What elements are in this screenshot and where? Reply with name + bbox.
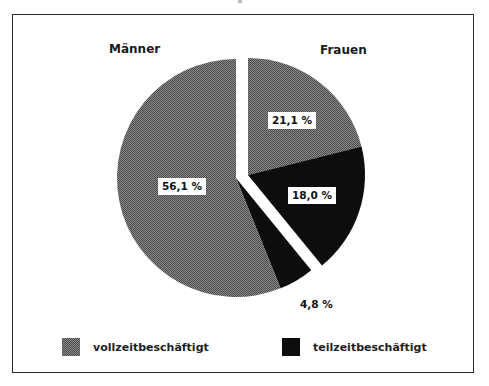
legend-label-fulltime: vollzeitbeschäftigt	[93, 341, 209, 354]
pie-chart	[0, 0, 489, 386]
legend-item-parttime: teilzeitbeschäftigt	[282, 338, 427, 356]
legend-swatch-fulltime	[62, 338, 80, 356]
legend-swatch-parttime	[282, 338, 300, 356]
group-label-women: Frauen	[320, 43, 367, 57]
legend-label-parttime: teilzeitbeschäftigt	[313, 341, 427, 354]
group-label-men: Männer	[109, 42, 160, 56]
value-label-men-fulltime: 56,1 %	[158, 178, 206, 195]
value-label-men-parttime: 4,8 %	[300, 298, 333, 311]
legend-item-fulltime: vollzeitbeschäftigt	[62, 338, 209, 356]
value-label-women-fulltime: 21,1 %	[268, 112, 316, 129]
value-label-women-parttime: 18,0 %	[288, 187, 336, 204]
